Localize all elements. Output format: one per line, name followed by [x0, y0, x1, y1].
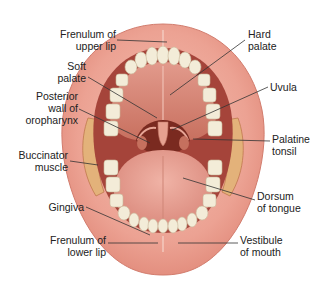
tonsil-right — [179, 136, 189, 150]
label-gingiva: Gingiva — [38, 201, 84, 213]
label-frenulum-upper-lip: Frenulum of upper lip — [21, 28, 116, 52]
label-soft-palate: Soft palate — [36, 60, 86, 84]
label-uvula: Uvula — [270, 81, 320, 93]
label-hard-palate: Hard palate — [248, 28, 308, 52]
label-buccinator-muscle: Buccinator muscle — [2, 149, 68, 173]
label-dorsum-of-tongue: Dorsum of tongue — [257, 190, 323, 214]
tonsil-left — [137, 136, 147, 150]
label-vestibule-of-mouth: Vestibule of mouth — [240, 234, 306, 258]
label-posterior-wall-oropharynx: Posterior wall of oropharynx — [2, 90, 78, 126]
label-palatine-tonsil: Palatine tonsil — [272, 133, 326, 157]
label-frenulum-lower-lip: Frenulum of lower lip — [22, 234, 106, 258]
oral-cavity-diagram: Frenulum of upper lip Soft palate Poster… — [0, 0, 326, 288]
